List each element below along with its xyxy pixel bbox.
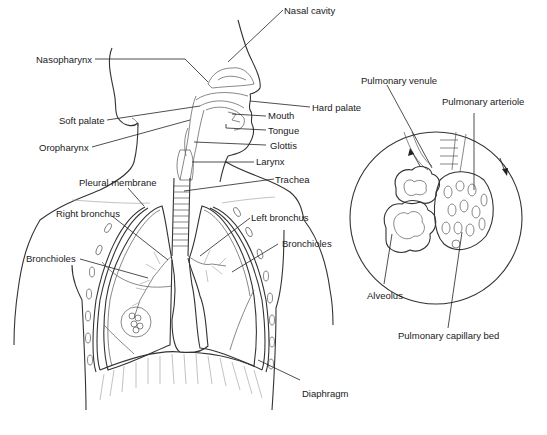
label-tongue: Tongue <box>268 125 299 136</box>
label-pulmonary-arteriole: Pulmonary arteriole <box>442 96 524 107</box>
label-bronchioles-left: Bronchioles <box>26 253 76 264</box>
label-diaphragm: Diaphragm <box>302 388 348 399</box>
label-glottis: Glottis <box>270 140 297 151</box>
label-larynx: Larynx <box>256 156 285 167</box>
label-bronchioles-right: Bronchioles <box>282 238 332 249</box>
label-left-bronchus: Left bronchus <box>251 212 309 223</box>
trachea-shape <box>172 178 190 256</box>
label-nasal-cavity: Nasal cavity <box>284 5 335 16</box>
label-pulmonary-capillary-bed: Pulmonary capillary bed <box>398 330 499 341</box>
label-pleural-membrane: Pleural membrane <box>79 177 157 188</box>
label-pulmonary-venule: Pulmonary venule <box>361 75 437 86</box>
label-right-bronchus: Right bronchus <box>56 208 120 219</box>
label-hard-palate: Hard palate <box>312 102 361 113</box>
respiratory-diagram: Nasal cavity Nasopharynx Hard palate Sof… <box>0 0 547 435</box>
label-oropharynx: Oropharynx <box>39 142 89 153</box>
label-nasopharynx: Nasopharynx <box>36 54 92 65</box>
label-alveolus: Alveolus <box>367 290 403 301</box>
label-mouth: Mouth <box>268 110 294 121</box>
label-soft-palate: Soft palate <box>59 115 104 126</box>
alveoli-inset <box>350 132 522 304</box>
rib-cage <box>86 206 275 372</box>
label-trachea: Trachea <box>275 174 310 185</box>
